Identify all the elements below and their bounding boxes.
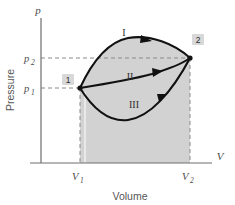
state-badge-2: 2	[192, 34, 204, 45]
y-axis-title: Pressure	[4, 69, 16, 111]
y-tick-p1-base: p	[23, 83, 29, 94]
state-point-1	[77, 85, 82, 90]
curve-label-II: II	[127, 71, 134, 82]
y-tick-p2: p 2	[23, 53, 35, 67]
x-tick-v1: V 1	[72, 171, 84, 185]
y-tick-p1-sub: 1	[31, 88, 35, 97]
y-tick-p1: p 1	[23, 83, 35, 97]
x-axis-title: Volume	[112, 190, 147, 202]
curve-label-I: I	[122, 27, 125, 38]
y-tick-p2-sub: 2	[31, 58, 35, 67]
y-axis-symbol: p	[34, 4, 41, 16]
x-tick-v2-sub: 2	[190, 176, 194, 185]
state-point-2	[187, 55, 192, 60]
x-tick-v2-base: V	[182, 171, 190, 182]
x-tick-v1-sub: 1	[80, 176, 84, 185]
x-tick-v1-base: V	[72, 171, 80, 182]
state-badge-2-label: 2	[196, 35, 201, 45]
x-tick-v2: V 2	[182, 171, 194, 185]
state-badge-1: 1	[62, 74, 74, 85]
curve-label-III: III	[129, 99, 139, 110]
x-axis-symbol: V	[217, 150, 225, 162]
y-tick-p2-base: p	[23, 53, 29, 64]
pv-diagram-figure: 1 2 I II III p V p 2 p 1 V 1 V 2	[0, 0, 235, 205]
state-badge-1-label: 1	[66, 75, 71, 85]
